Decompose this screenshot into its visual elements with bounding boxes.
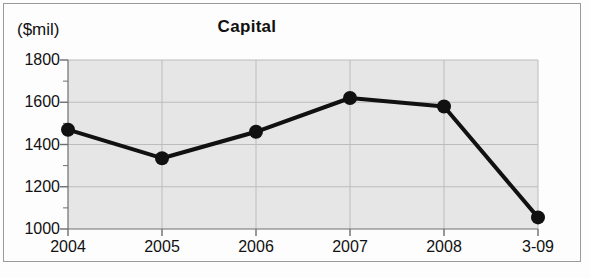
data-point [437, 100, 451, 114]
y-tick-label: 1000 [6, 220, 60, 238]
y-tick-label: 1800 [6, 51, 60, 69]
x-tick-label: 2008 [399, 238, 489, 256]
x-tick-label: 2007 [305, 238, 395, 256]
data-point [531, 210, 545, 224]
data-point [61, 123, 75, 137]
y-tick-label: 1600 [6, 93, 60, 111]
data-point [155, 151, 169, 165]
data-point [249, 125, 263, 139]
data-point [343, 91, 357, 105]
y-tick-label: 1200 [6, 178, 60, 196]
chart-plot-area [0, 0, 590, 278]
y-tick-label: 1400 [6, 136, 60, 154]
x-tick-label: 3-09 [493, 238, 583, 256]
chart-figure: ($mil) Capital 10001200140016001800 2004… [0, 0, 590, 278]
x-tick-label: 2005 [117, 238, 207, 256]
x-tick-label: 2004 [23, 238, 113, 256]
x-tick-label: 2006 [211, 238, 301, 256]
